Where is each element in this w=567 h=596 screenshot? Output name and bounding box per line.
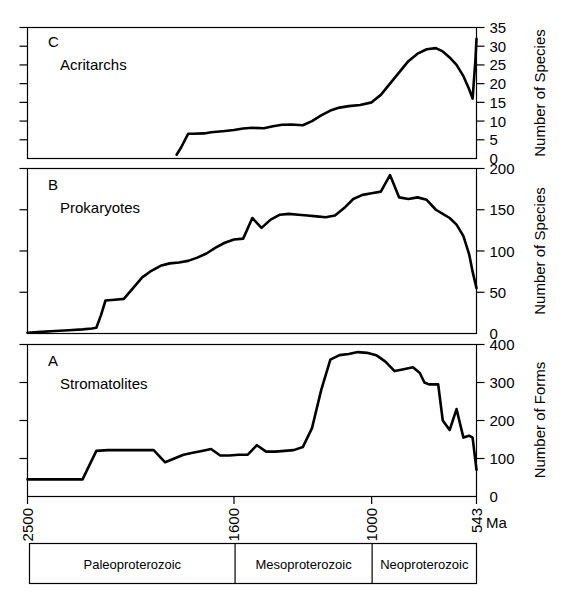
panel-a-letter: A xyxy=(48,352,58,369)
panel-b-y-axis-label: Number of Species xyxy=(531,187,548,315)
figure-background xyxy=(0,0,567,596)
era-label: Neoproterozoic xyxy=(380,557,469,572)
panel-a-y-tick-label: 100 xyxy=(490,450,515,467)
panel-b-y-tick-label: 150 xyxy=(490,201,515,218)
x-axis-tick-label: 2500 xyxy=(19,508,36,541)
x-axis-unit-label: Ma xyxy=(486,514,507,531)
panel-c-y-tick-label: 25 xyxy=(490,56,507,73)
panel-b-name: Prokaryotes xyxy=(60,199,140,216)
panel-a-y-tick-label: 0 xyxy=(490,488,498,505)
x-axis-tick-label: 1000 xyxy=(363,508,380,541)
panel-c-y-axis-label: Number of Species xyxy=(531,29,548,157)
panel-a-y-axis-label: Number of Forms xyxy=(531,362,548,479)
panel-b-letter: B xyxy=(48,176,58,193)
panel-b-y-tick-label: 50 xyxy=(490,284,507,301)
x-axis-tick-label: 543 xyxy=(468,508,485,533)
multi-panel-time-series-figure: 05101520253035 C Acritarchs Number of Sp… xyxy=(0,0,567,596)
era-bar-labels: PaleoproterozoicMesoproterozoicNeoproter… xyxy=(84,557,469,572)
era-label: Mesoproterozoic xyxy=(256,557,353,572)
panel-a-y-tick-label: 300 xyxy=(490,374,515,391)
panel-b-y-tick-label: 200 xyxy=(490,160,515,177)
panel-c-letter: C xyxy=(48,33,59,50)
panel-c-y-tick-label: 5 xyxy=(490,131,498,148)
panel-c-y-tick-label: 15 xyxy=(490,94,507,111)
panel-c-name: Acritarchs xyxy=(60,56,127,73)
panel-c-y-tick-label: 35 xyxy=(490,19,507,36)
panel-b-y-tick-label: 100 xyxy=(490,243,515,260)
x-axis-tick-label: 1600 xyxy=(225,508,242,541)
panel-a-y-tick-label: 200 xyxy=(490,412,515,429)
panel-c-y-tick-label: 10 xyxy=(490,113,507,130)
figure-container: 05101520253035 C Acritarchs Number of Sp… xyxy=(0,0,567,596)
panel-c-y-tick-label: 20 xyxy=(490,75,507,92)
panel-a-name: Stromatolites xyxy=(60,375,148,392)
era-label: Paleoproterozoic xyxy=(84,557,182,572)
panel-a-y-tick-label: 400 xyxy=(490,336,515,353)
panel-c-y-tick-label: 30 xyxy=(490,38,507,55)
